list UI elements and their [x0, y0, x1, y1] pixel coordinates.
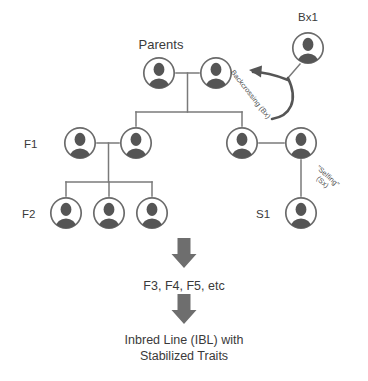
label-outcome: Inbred Line (IBL) with Stabilized Traits [125, 333, 244, 364]
label-f2: F2 [22, 207, 35, 221]
node-f2-a[interactable] [51, 198, 81, 236]
label-s1: S1 [256, 207, 270, 221]
label-outcome-line1: Inbred Line (IBL) with [125, 333, 244, 349]
node-s1[interactable] [286, 198, 316, 236]
node-f1-a[interactable] [65, 128, 95, 166]
breeding-pedigree-diagram: Parents Bx1 F1 F2 S1 Backcrossing (Bx) "… [0, 0, 368, 381]
label-parents: Parents [139, 37, 184, 53]
node-bx1[interactable] [293, 33, 323, 71]
node-f1-b[interactable] [121, 128, 151, 166]
connector-bx1-tail [288, 64, 300, 78]
flow-arrow-to-ibl [172, 294, 197, 324]
label-bx1: Bx1 [298, 10, 318, 24]
label-later-generations: F3, F4, F5, etc [143, 279, 224, 295]
node-f2-b[interactable] [94, 198, 124, 236]
flow-arrow-to-f3 [172, 238, 197, 268]
label-outcome-line2: Stabilized Traits [125, 349, 244, 365]
node-f1-c[interactable] [227, 128, 257, 166]
pedigree-connectors [66, 64, 301, 196]
node-parent-left[interactable] [144, 58, 174, 96]
label-f1: F1 [24, 137, 37, 151]
node-parent-right[interactable] [201, 58, 231, 96]
diagram-canvas [0, 0, 368, 381]
node-f2-c[interactable] [137, 198, 167, 236]
